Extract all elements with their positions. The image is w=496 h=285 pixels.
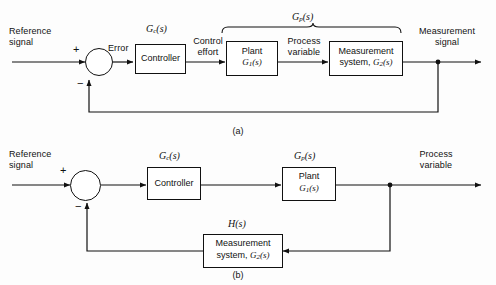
label-a-controller-tf: Gc(s) — [146, 23, 167, 37]
block-a-measurement-system[interactable]: Measurement system, G2(s) — [329, 41, 403, 76]
label-b-process-variable: Process variable — [408, 149, 464, 171]
label-a-measurement-signal: Measurement signal — [408, 26, 486, 48]
block-b-plant[interactable]: Plant G1(s) — [282, 167, 336, 201]
block-b-controller[interactable]: Controller — [147, 167, 201, 200]
label-b-feedback-tf: H(s) — [228, 218, 246, 229]
label-b-reference-signal: Reference signal — [9, 149, 51, 171]
block-b-measurement-system[interactable]: Measurement system, G2(s) — [203, 234, 283, 268]
label-b-controller-tf: Gc(s) — [159, 150, 180, 164]
junction-dot-a — [436, 60, 441, 65]
label-a-control-effort: Control effort — [190, 36, 226, 58]
block-diagram-figure: Reference signal + − Error Gc(s) Control… — [0, 0, 496, 285]
label-a-process-variable: Process variable — [281, 36, 327, 58]
block-a-controller[interactable]: Controller — [135, 44, 186, 74]
junction-dot-b — [388, 183, 393, 188]
caption-b: (b) — [224, 270, 252, 280]
sum-a-minus-sign: − — [77, 78, 83, 89]
wire-b-feedback-return — [87, 203, 203, 251]
caption-a: (a) — [224, 126, 252, 136]
label-b-plant-tf: Gp(s) — [294, 150, 315, 164]
label-a-gp-tf: Gp(s) — [292, 11, 313, 25]
block-a-plant[interactable]: Plant G1(s) — [226, 41, 278, 76]
sum-a-plus-sign: + — [73, 44, 79, 55]
summing-junction-b[interactable] — [70, 170, 101, 201]
label-a-reference-signal: Reference signal — [9, 26, 51, 48]
sum-b-plus-sign: + — [60, 165, 66, 176]
sum-b-minus-sign: − — [75, 201, 81, 212]
label-a-error: Error — [108, 43, 129, 54]
